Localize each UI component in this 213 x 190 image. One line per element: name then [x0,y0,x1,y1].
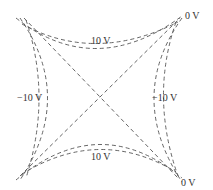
equipotential-diagram: 10 V 10 V −10 V −10 V 0 V 0 V [0,0,213,190]
label-top-right-0v: 0 V [185,10,200,21]
label-top-10v: 10 V [91,35,111,46]
label-bottom-10v: 10 V [91,151,111,162]
label-left-minus10v: −10 V [17,92,43,103]
label-bottom-right-0v: 0 V [181,177,196,188]
label-right-minus10v: −10 V [152,92,178,103]
bottom-10v-curves [16,144,182,180]
